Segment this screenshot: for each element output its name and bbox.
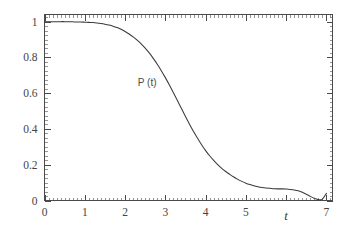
y-tick-label: 0.6 <box>23 87 38 99</box>
y-tick-label: 1 <box>32 16 38 28</box>
x-tick-label: 5 <box>243 206 249 218</box>
y-tick-label: 0 <box>32 195 38 207</box>
x-tick-label: 4 <box>203 206 209 218</box>
curve-p-of-t <box>45 22 327 200</box>
plot-frame <box>45 15 333 201</box>
y-tick-label: 0.8 <box>23 51 38 63</box>
plot-svg: 00.20.40.60.81 0123457 t P (t) <box>0 0 352 233</box>
x-tick-label: 2 <box>122 206 128 218</box>
x-tick-label: 7 <box>324 206 330 218</box>
chart-figure: 00.20.40.60.81 0123457 t P (t) <box>0 0 352 233</box>
x-tick-label: 0 <box>42 206 48 218</box>
y-tick-label: 0.4 <box>23 123 38 135</box>
curve-annotation-label: P (t) <box>138 77 157 88</box>
y-axis-tick-labels: 00.20.40.60.81 <box>23 16 38 207</box>
x-axis-label: t <box>284 208 288 223</box>
x-tick-label: 3 <box>162 206 168 218</box>
y-tick-label: 0.2 <box>23 159 38 171</box>
minor-ticks <box>45 15 333 201</box>
major-ticks <box>45 15 333 202</box>
x-tick-label: 1 <box>82 206 88 218</box>
